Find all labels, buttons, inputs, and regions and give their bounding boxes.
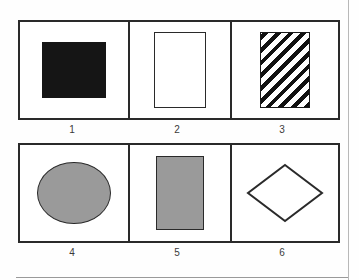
open-diamond-shape xyxy=(245,162,325,224)
open-rectangle-shape xyxy=(154,32,206,108)
shape-cell-1[interactable] xyxy=(20,22,128,118)
gray-ellipse-shape xyxy=(37,162,111,224)
shape-row-bottom xyxy=(18,143,340,243)
shape-cell-4[interactable] xyxy=(20,145,128,241)
shape-cell-5[interactable] xyxy=(128,145,230,241)
shape-row-top xyxy=(18,20,340,120)
shape-label-3: 3 xyxy=(228,120,336,140)
shape-label-5: 5 xyxy=(126,243,228,263)
page-edge-rule-horizontal xyxy=(16,277,348,278)
shape-label-4: 4 xyxy=(18,243,126,263)
shape-label-6: 6 xyxy=(228,243,336,263)
hatched-rectangle-shape xyxy=(260,32,310,108)
gray-rectangle-shape xyxy=(156,156,204,230)
shape-label-1: 1 xyxy=(18,120,126,140)
shape-cell-3[interactable] xyxy=(230,22,338,118)
figure-sheet: 1 2 3 4 5 6 xyxy=(0,0,359,280)
page-edge-rule-vertical xyxy=(348,0,349,280)
shape-label-2: 2 xyxy=(126,120,228,140)
shape-label-row-bottom: 4 5 6 xyxy=(18,243,340,263)
shape-label-row-top: 1 2 3 xyxy=(18,120,340,140)
filled-square-shape xyxy=(42,42,106,98)
shape-cell-6[interactable] xyxy=(230,145,338,241)
shape-cell-2[interactable] xyxy=(128,22,230,118)
